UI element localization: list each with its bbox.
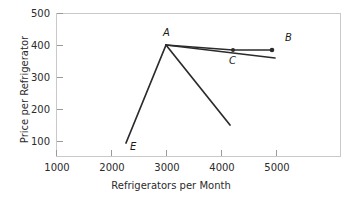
line-a-steep-decline <box>166 45 230 125</box>
x-tick-label-2000: 2000 <box>92 162 132 173</box>
point-label-a: A <box>163 27 170 38</box>
chart-figure: 500 400 300 200 100 1000 2000 3000 4000 … <box>0 0 359 202</box>
line-a-to-lower <box>166 45 275 58</box>
data-lines <box>126 45 275 143</box>
x-tick-label-5000: 5000 <box>257 162 297 173</box>
y-tick-label-100: 100 <box>26 136 50 147</box>
x-tick-label-4000: 4000 <box>202 162 242 173</box>
y-axis-title: Price per Refrigerator <box>19 20 30 160</box>
marker-c <box>231 48 235 52</box>
x-axis-ticks <box>57 150 277 156</box>
point-label-c: C <box>229 55 236 66</box>
y-axis-ticks <box>57 14 63 142</box>
y-tick-label-300: 300 <box>26 72 50 83</box>
y-tick-label-200: 200 <box>26 104 50 115</box>
x-tick-label-3000: 3000 <box>147 162 187 173</box>
y-tick-label-500: 500 <box>26 8 50 19</box>
point-label-b: B <box>285 32 292 43</box>
marker-b <box>270 48 275 53</box>
line-e-to-a <box>126 45 166 143</box>
x-axis-title: Refrigerators per Month <box>56 180 286 191</box>
x-tick-label-1000: 1000 <box>37 162 77 173</box>
y-tick-label-400: 400 <box>26 40 50 51</box>
point-label-e: E <box>130 141 136 152</box>
